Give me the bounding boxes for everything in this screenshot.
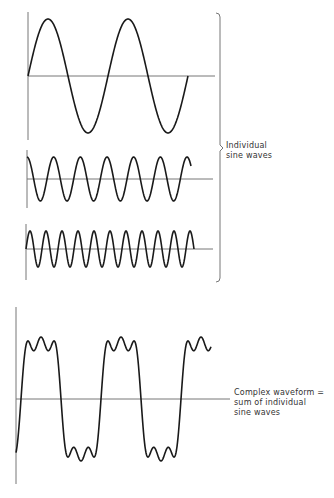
fundamental-sine-wave xyxy=(28,12,215,140)
individual-sine-waves-label: Individual sine waves xyxy=(226,141,272,161)
individual-waves-bracket xyxy=(216,13,223,282)
label-line: sine waves xyxy=(226,151,272,161)
third-harmonic-sine-wave xyxy=(27,150,213,208)
label-line: sum of individual xyxy=(234,398,324,408)
label-line: sine waves xyxy=(234,408,324,418)
label-line: Complex waveform = xyxy=(234,388,324,398)
waveform-diagram xyxy=(0,0,334,498)
complex-waveform xyxy=(16,307,230,484)
complex-waveform-label: Complex waveform = sum of individual sin… xyxy=(234,388,324,418)
fifth-harmonic-sine-wave xyxy=(26,224,213,280)
label-line: Individual xyxy=(226,141,272,151)
